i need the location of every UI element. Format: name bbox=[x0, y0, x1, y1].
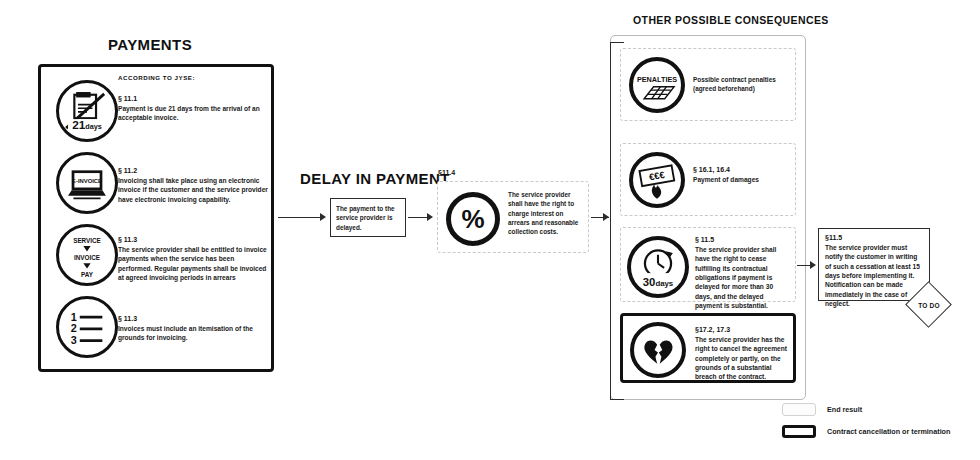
arrowhead-to-interest bbox=[427, 213, 433, 221]
clause-11-1-body: Payment is due 21 days from the arrival … bbox=[118, 104, 270, 123]
legend-label-end-result: End result bbox=[827, 405, 862, 414]
clause-11-3b-number: § 11.3 bbox=[118, 315, 270, 322]
delay-in-payment-box: The payment to the service provider is d… bbox=[330, 198, 406, 237]
svg-text:3: 3 bbox=[71, 334, 77, 346]
consequence-damages-box: €€€ § 16.1, 16.4 Payment of damages bbox=[620, 143, 796, 216]
svg-text:2: 2 bbox=[71, 322, 77, 334]
legend-row-end-result: End result bbox=[782, 403, 972, 416]
svg-text:PAY: PAY bbox=[81, 271, 94, 278]
consequence-penalties-text: Possible contract penalties (agreed befo… bbox=[693, 75, 791, 94]
consequence-cancellation-clause: §17.2, 17.3 bbox=[695, 326, 791, 333]
connector-payments-to-delay bbox=[278, 217, 322, 218]
clause-11-2-body: Invoicing shall take place using an elec… bbox=[118, 176, 270, 204]
consequences-spine-top bbox=[610, 42, 624, 43]
clause-11-3a-text-block: § 11.3 The service provider shall be ent… bbox=[118, 236, 270, 282]
e-invoice-laptop-icon: E-INVOICE bbox=[56, 152, 118, 214]
payments-heading: PAYMENTS bbox=[108, 36, 192, 53]
consequence-damages-text-block: § 16.1, 16.4 Payment of damages bbox=[693, 166, 791, 184]
other-possible-consequences-heading: OTHER POSSIBLE CONSEQUENCES bbox=[633, 14, 829, 26]
delay-in-payment-heading: DELAY IN PAYMENT bbox=[300, 170, 450, 187]
svg-text:INVOICE: INVOICE bbox=[74, 254, 100, 261]
clause-11-3a-body: The service provider shall be entitled t… bbox=[118, 245, 270, 282]
consequence-damages-clause: § 16.1, 16.4 bbox=[693, 166, 791, 173]
clause-11-1-number: § 11.1 bbox=[118, 95, 270, 102]
consequence-cease-text-block: § 11.5 The service provider shall have t… bbox=[695, 236, 791, 311]
legend-swatch-dark bbox=[782, 425, 816, 438]
consequences-spine bbox=[610, 42, 611, 400]
consequence-cease-obligations-box: 30days § 11.5 The service provider shall… bbox=[620, 227, 796, 302]
clause-11-2-text-block: § 11.2 Invoicing shall take place using … bbox=[118, 167, 270, 204]
clause-11-3a-number: § 11.3 bbox=[118, 236, 270, 243]
clause-11-1-text-block: § 11.1 Payment is due 21 days from the a… bbox=[118, 95, 270, 123]
penalties-icon: PENALTIES bbox=[629, 57, 685, 113]
arrowhead-to-result bbox=[810, 261, 816, 269]
arrowhead-to-consequences bbox=[603, 213, 609, 221]
consequence-cancellation-text-block: §17.2, 17.3 The service provider has the… bbox=[695, 326, 791, 382]
consequence-cancellation-text: The service provider has the right to ca… bbox=[695, 335, 791, 382]
according-to-label: ACCORDING TO JYSE: bbox=[118, 74, 195, 81]
legend-label-cancellation: Contract cancellation or termination bbox=[827, 427, 950, 436]
clause-11-4-text: The service provider shall have the righ… bbox=[508, 190, 586, 236]
consequence-cease-clause: § 11.5 bbox=[695, 236, 791, 243]
broken-heart-icon bbox=[630, 322, 686, 378]
legend: End result Contract cancellation or term… bbox=[782, 403, 972, 447]
invoice-21days-icon: 21days bbox=[56, 80, 118, 142]
clause-11-3b-body: Invoices must include an itemisation of … bbox=[118, 324, 270, 343]
todo-label: TO DO bbox=[906, 282, 952, 328]
percent-icon: % bbox=[446, 192, 500, 246]
clock-30days-icon: 30days bbox=[627, 236, 689, 298]
service-invoice-pay-icon: SERVICE INVOICE PAY bbox=[56, 224, 118, 286]
diagram-canvas: PAYMENTS DELAY IN PAYMENT OTHER POSSIBLE… bbox=[0, 0, 980, 460]
svg-text:PENALTIES: PENALTIES bbox=[637, 75, 677, 84]
consequence-penalties-box: PENALTIES Possible contract penalties (a… bbox=[620, 48, 796, 121]
consequences-spine-bottom bbox=[610, 399, 624, 400]
legend-row-cancellation: Contract cancellation or termination bbox=[782, 425, 972, 438]
clause-11-2-number: § 11.2 bbox=[118, 167, 270, 174]
svg-text:E-INVOICE: E-INVOICE bbox=[72, 178, 102, 184]
clause-11-3b-text-block: § 11.3 Invoices must include an itemisat… bbox=[118, 315, 270, 343]
arrowhead-to-delay bbox=[320, 213, 326, 221]
result-clause: §11.5 bbox=[825, 234, 923, 241]
clause-11-4-label: §11.4 bbox=[438, 169, 455, 176]
clause-11-4-box: % The service provider shall have the ri… bbox=[437, 181, 589, 253]
legend-swatch-light bbox=[782, 403, 816, 416]
svg-text:1: 1 bbox=[71, 311, 77, 323]
delay-box-text: The payment to the service provider is d… bbox=[331, 199, 405, 232]
svg-text:SERVICE: SERVICE bbox=[73, 237, 101, 244]
consequence-cancellation-box: §17.2, 17.3 The service provider has the… bbox=[620, 313, 796, 383]
burning-money-icon: €€€ bbox=[629, 152, 685, 208]
consequence-cease-text: The service provider shall have the righ… bbox=[695, 245, 791, 311]
todo-marker: TO DO bbox=[906, 282, 952, 328]
consequence-damages-text: Payment of damages bbox=[693, 175, 791, 184]
connector-delay-to-interest bbox=[408, 217, 429, 218]
itemised-list-icon: 1 2 3 bbox=[56, 296, 118, 358]
